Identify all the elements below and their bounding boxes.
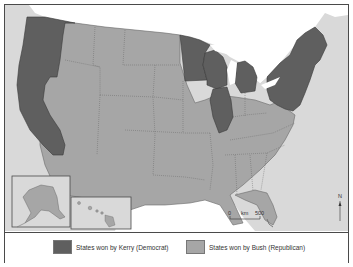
svg-text:N: N (338, 193, 342, 199)
election-map: 0 km 500 N (5, 5, 348, 231)
hawaii-inset (71, 197, 131, 229)
alaska-inset (12, 176, 70, 227)
svg-text:km: km (241, 210, 249, 216)
legend-label-kerry: States won by Kerry (Democrat) (76, 244, 168, 251)
legend: States won by Kerry (Democrat) States wo… (5, 232, 348, 263)
legend-item-kerry: States won by Kerry (Democrat) (53, 240, 168, 254)
legend-label-bush: States won by Bush (Republican) (209, 244, 305, 251)
svg-text:500: 500 (255, 210, 264, 216)
legend-item-bush: States won by Bush (Republican) (186, 240, 305, 254)
bush-swatch (186, 240, 205, 254)
svg-text:0: 0 (228, 210, 231, 216)
kerry-swatch (53, 240, 72, 254)
